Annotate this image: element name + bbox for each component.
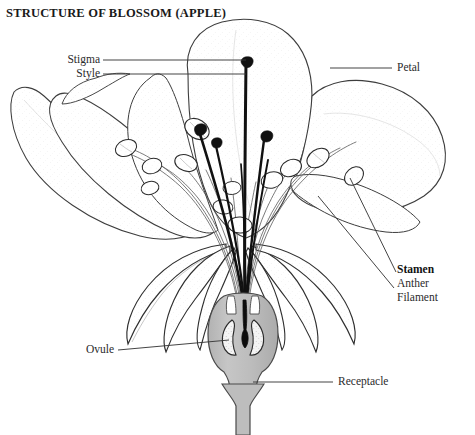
receptacle-funnel — [222, 384, 264, 435]
label-stamen: Stamen — [397, 263, 434, 276]
diagram-page: STRUCTURE OF BLOSSOM (APPLE) — [0, 0, 475, 435]
ovary-style-channel-right — [250, 296, 260, 314]
ovary-style-channel-left — [226, 296, 236, 314]
label-filament: Filament — [397, 291, 438, 304]
label-anther: Anther — [397, 277, 429, 290]
stigma — [211, 138, 222, 148]
label-stigma: Stigma — [48, 53, 100, 66]
stigma — [261, 131, 273, 142]
receptacle-group — [208, 293, 278, 435]
label-style: Style — [48, 67, 100, 80]
label-ovule: Ovule — [60, 343, 114, 356]
label-receptacle: Receptacle — [338, 375, 388, 388]
label-petal: Petal — [397, 61, 420, 74]
